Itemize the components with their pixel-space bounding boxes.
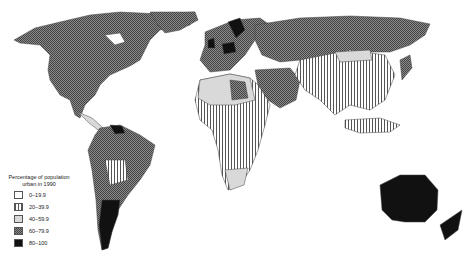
legend-item-20-39: 20–39.9 [14, 203, 84, 211]
legend-title: Percentage of population urban in 1990 [4, 174, 74, 187]
legend-label: 0–19.9 [29, 192, 46, 198]
swatch-stripes [14, 203, 23, 211]
region-uk [208, 38, 215, 48]
legend-item-40-59: 40–59.9 [14, 215, 84, 223]
region-central-america [78, 112, 105, 130]
region-mongolia [335, 50, 372, 62]
swatch-light-gray [14, 215, 23, 223]
map-legend: Percentage of population urban in 1990 0… [4, 174, 84, 247]
swatch-checker [14, 227, 23, 235]
legend-item-0-19: 0–19.9 [14, 191, 84, 199]
legend-title-line2: urban in 1990 [4, 181, 74, 188]
region-japan [400, 55, 412, 80]
legend-item-60-79: 60–79.9 [14, 227, 84, 235]
legend-label: 80–100 [29, 240, 47, 246]
region-germany-benelux [222, 42, 236, 54]
legend-label: 20–39.9 [29, 204, 49, 210]
legend-label: 40–59.9 [29, 216, 49, 222]
legend-title-line1: Percentage of population [4, 174, 74, 181]
region-south-america [88, 125, 155, 250]
swatch-black [14, 239, 23, 247]
legend-label: 60–79.9 [29, 228, 49, 234]
region-argentina [99, 200, 120, 250]
legend-item-80-100: 80–100 [14, 239, 84, 247]
region-new-zealand [440, 210, 462, 240]
swatch-white [14, 191, 23, 199]
region-indonesia [345, 118, 400, 133]
region-libya [230, 80, 248, 100]
region-australia [380, 175, 438, 222]
